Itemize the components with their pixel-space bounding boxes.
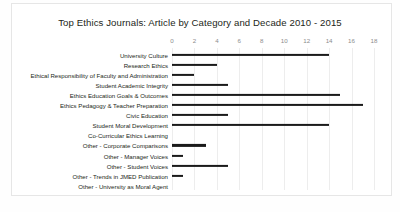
category-label: Other - Student Voices [18,162,168,169]
category-label: Student Academic Integrity [18,81,168,88]
category-label: Other - Trends in JMED Publication [18,172,168,179]
bar [172,94,340,96]
bar [172,175,183,177]
bar [172,64,217,66]
x-tick-label: 2 [193,37,196,44]
category-label: Other - University as Moral Agent [18,182,168,189]
x-tick-label: 18 [371,37,378,44]
x-tick-label: 4 [215,37,218,44]
bar [172,154,183,156]
chart-title: Top Ethics Journals: Article by Category… [0,17,400,28]
category-label: University Culture [18,51,168,58]
bar [172,165,228,167]
category-label: Other - Manager Voices [18,152,168,159]
bar [172,144,206,146]
x-axis-tick-labels: 024681012141618 [172,37,374,47]
bar [172,74,194,76]
x-tick-label: 8 [260,37,263,44]
bar [172,84,228,86]
chart-screenshot: Top Ethics Journals: Article by Category… [0,0,400,212]
category-label: Student Moral Development [18,122,168,129]
category-label: Ethical Responsibility of Faculty and Ad… [18,71,168,78]
category-label: Co-Curricular Ethics Learning [18,132,168,139]
x-tick-label: 6 [238,37,241,44]
x-tick-label: 0 [170,37,173,44]
bar [172,124,329,126]
plot-area [172,48,374,190]
gridline [374,48,375,190]
category-label: Ethics Pedagogy & Teacher Preparation [18,102,168,109]
category-label: Research Ethics [18,61,168,68]
x-tick-label: 12 [303,37,310,44]
bar-series [172,48,374,190]
bar [172,114,228,116]
category-label: Ethics Education Goals & Outcomes [18,91,168,98]
x-tick-label: 10 [281,37,288,44]
x-tick-label: 16 [348,37,355,44]
category-label: Civic Education [18,112,168,119]
bar [172,104,363,106]
category-label: Other - Corporate Comparisons [18,142,168,149]
bar [172,53,329,55]
x-tick-label: 14 [326,37,333,44]
y-axis-category-labels: University CultureResearch EthicsEthical… [18,48,168,190]
